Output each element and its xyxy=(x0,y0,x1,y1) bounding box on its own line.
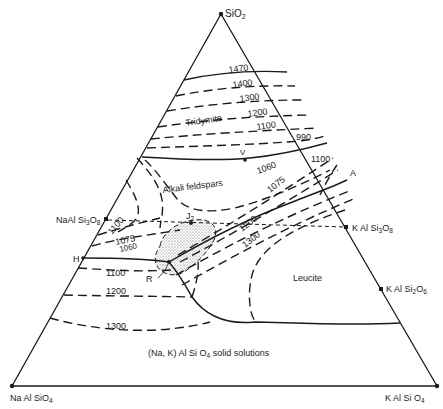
label-1200-top: 1200 xyxy=(247,106,268,119)
curve-r-dashed xyxy=(192,262,198,297)
ternary-phase-diagram: SiO2 Na Al SiO4 K Al Si O4 NaAl Si3O8 K … xyxy=(0,0,443,409)
label-leucite: Leucite xyxy=(293,273,322,283)
label-1470: 1470 xyxy=(228,62,249,75)
leucite-curve-dashed xyxy=(249,210,345,321)
label-a: A xyxy=(350,168,356,178)
isotherm-1300-low xyxy=(50,318,210,330)
label-kalsi2o6: K Al Si2O6 xyxy=(386,284,427,295)
label-j2: J2 xyxy=(186,211,195,222)
feldspar-curve-left-1 xyxy=(137,158,163,228)
label-1400: 1400 xyxy=(232,77,253,90)
boundary-r-down xyxy=(169,262,400,324)
label-1075-right: 1075 xyxy=(265,174,287,194)
vertex-kalsio4-dot xyxy=(435,384,439,388)
isotherm-1300-top xyxy=(167,100,303,111)
label-1060: 1060 xyxy=(255,160,277,176)
point-h xyxy=(81,256,85,260)
label-1100-top: 1100 xyxy=(256,119,277,132)
label-kalsio4: K Al Si O4 xyxy=(385,393,425,404)
point-r xyxy=(167,260,171,264)
label-1300-low: 1300 xyxy=(106,321,126,331)
label-990: 990 xyxy=(296,132,311,142)
isotherm-1200-top xyxy=(158,115,311,127)
label-1300-top: 1300 xyxy=(239,91,260,104)
label-r: R xyxy=(146,274,153,284)
label-sio2: SiO2 xyxy=(225,8,246,20)
triangle-frame xyxy=(12,14,437,386)
vertex-naalsio4-dot xyxy=(10,384,14,388)
label-solid-solutions: (Na, K) Al Si O4 solid solutions xyxy=(148,348,270,359)
label-tridymite: Tridymite xyxy=(185,113,223,128)
point-v xyxy=(243,158,247,162)
label-1200-low: 1200 xyxy=(106,286,126,296)
isotherm-1200-low xyxy=(64,295,192,297)
label-1100-low: 1100 xyxy=(106,268,125,278)
label-1100-left: 1100 xyxy=(106,215,126,236)
label-naalsio4: Na Al SiO4 xyxy=(10,393,53,404)
label-alkali-feldspars: Alkali feldspars xyxy=(162,178,224,195)
label-kalsi3o8: K Al Si3O8 xyxy=(352,223,393,234)
naalsi3o8-point xyxy=(104,217,108,221)
label-1100-right: 1100 xyxy=(311,154,330,164)
label-h: H xyxy=(73,254,80,264)
vertex-sio2-dot xyxy=(219,12,223,16)
label-v: V xyxy=(240,148,246,157)
label-naalsi3o8: NaAl Si3O8 xyxy=(56,215,101,226)
kalsi2o6-point xyxy=(379,287,383,291)
